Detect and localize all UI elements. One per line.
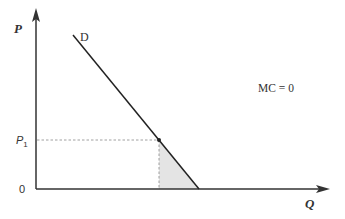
demand-diagram: P Q 0 D P1 MC = 0: [0, 0, 345, 219]
x-axis-label: Q: [305, 196, 315, 211]
demand-curve-label: D: [80, 30, 89, 44]
demand-curve: [73, 35, 199, 189]
y-axis-label: P: [14, 21, 23, 36]
y-axis: [32, 8, 40, 189]
mc-annotation: MC = 0: [258, 82, 294, 94]
price-label-subscript: 1: [23, 140, 28, 149]
equilibrium-point: [157, 138, 161, 142]
price-label-p1: P1: [16, 134, 28, 149]
origin-label: 0: [19, 183, 25, 195]
